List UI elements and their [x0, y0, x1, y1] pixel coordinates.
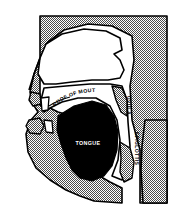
- label-uvula: UVULA: [126, 96, 132, 115]
- neck-tissue-region: [141, 120, 167, 203]
- label-epiglottis: EPIGLOTTIS: [134, 132, 140, 166]
- upper-lip-region: [29, 92, 41, 106]
- label-tongue: TONGUE: [75, 140, 100, 146]
- upper-teeth: [41, 97, 49, 111]
- lower-teeth: [44, 120, 53, 133]
- lower-lip-region: [26, 118, 44, 134]
- vocal-tract-diagram: ROOF OF MOUTH TONGUE UVULA EPIGLOTTIS: [0, 0, 175, 217]
- epiglottis-region: [120, 142, 134, 182]
- anatomical-figure: ROOF OF MOUTH TONGUE UVULA EPIGLOTTIS: [0, 0, 175, 217]
- figure-body: ROOF OF MOUTH TONGUE UVULA EPIGLOTTIS: [0, 0, 167, 203]
